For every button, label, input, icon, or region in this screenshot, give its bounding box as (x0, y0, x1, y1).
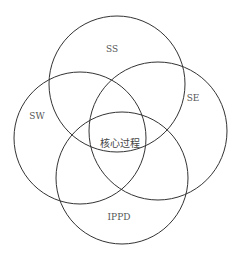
label-se: SE (187, 94, 200, 103)
label-ippd: IPPD (108, 213, 131, 222)
circle-se (89, 62, 227, 200)
label-sw: SW (29, 112, 44, 121)
label-core-process: 核心过程 (100, 139, 140, 149)
circle-ippd (56, 112, 188, 244)
label-ss: SS (106, 45, 118, 54)
circle-ss (49, 16, 185, 152)
